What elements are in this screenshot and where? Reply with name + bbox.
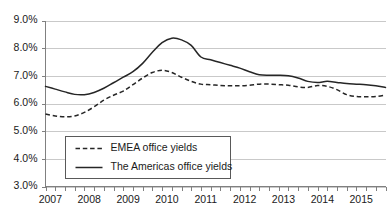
x-axis-tick-label: 2014 (311, 193, 335, 205)
x-axis-tick-label: 2013 (272, 193, 296, 205)
legend-label-emea: EMEA office yields (111, 141, 198, 153)
x-axis-tick-labels: 200720082009201020112012201320142015 (39, 193, 373, 205)
series-line-emea (46, 70, 386, 116)
x-axis-tick-label: 2008 (78, 193, 102, 205)
y-axis-tick-label: 3.0% (14, 179, 38, 191)
y-axis-tick-label: 5.0% (14, 124, 38, 136)
x-axis-tick-label: 2011 (194, 193, 217, 205)
y-axis-tick-label: 4.0% (14, 152, 38, 164)
x-axis-tick-label: 2010 (155, 193, 179, 205)
x-axis-tick-label: 2009 (116, 193, 140, 205)
y-axis-tick-label: 7.0% (14, 69, 38, 81)
legend-label-americas: The Americas office yields (111, 160, 233, 172)
x-axis-tick-label: 2007 (39, 193, 63, 205)
y-axis-tick-label: 6.0% (14, 96, 38, 108)
y-axis-tick-label: 8.0% (14, 41, 38, 53)
y-axis-tick-label: 9.0% (14, 13, 38, 25)
y-axis-tick-labels: 9.0%8.0%7.0%6.0%5.0%4.0%3.0% (14, 13, 38, 191)
chart-container: 9.0%8.0%7.0%6.0%5.0%4.0%3.0% 20072008200… (0, 0, 392, 222)
line-chart: 9.0%8.0%7.0%6.0%5.0%4.0%3.0% 20072008200… (0, 0, 392, 222)
x-axis-tick-label: 2012 (233, 193, 257, 205)
x-axis-tick-label: 2015 (350, 193, 374, 205)
chart-legend: EMEA office yieldsThe Americas office yi… (66, 137, 233, 179)
series-line-americas (46, 38, 386, 95)
